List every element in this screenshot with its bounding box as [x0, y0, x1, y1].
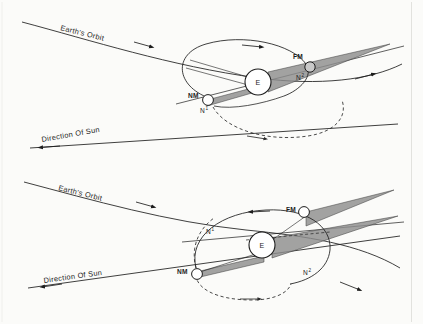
full-moon-body-lower [299, 207, 310, 218]
svg-text:2: 2 [302, 73, 305, 78]
sun-direction-line-lower [28, 236, 400, 288]
panel-upper: E Earth's Orbit Direction Of Sun NM FM N… [22, 22, 404, 148]
new-moon-shadow-cone-lower [196, 256, 264, 278]
earths-orbit-label-lower: Earth's Orbit [58, 183, 104, 203]
svg-text:1: 1 [206, 106, 209, 111]
node-n2-label-lower: N 2 [303, 268, 312, 277]
full-moon-label-lower: FM [286, 206, 296, 213]
new-moon-body-lower [192, 269, 203, 280]
sun-direction-label-lower: Direction Of Sun [43, 268, 103, 285]
eclipse-diagram-figure: E Earth's Orbit Direction Of Sun NM FM N… [0, 0, 423, 324]
svg-text:1: 1 [212, 227, 215, 232]
svg-text:N: N [303, 269, 308, 276]
new-moon-label-lower: NM [177, 268, 188, 275]
svg-text:2: 2 [309, 268, 312, 273]
svg-text:N: N [200, 107, 205, 114]
earth-shadow-cone-upper [268, 44, 390, 92]
earths-orbit-arrow-upper [134, 42, 152, 47]
moon-orbit-direction-arrow-top-upper [242, 45, 262, 47]
diagram-canvas: E Earth's Orbit Direction Of Sun NM FM N… [0, 0, 423, 324]
node-n2-label-upper: N 2 [296, 73, 305, 82]
node-n1-label-upper: N 1 [200, 106, 209, 115]
earths-orbit-arrow-upper-right [355, 74, 374, 79]
earths-orbit-arrow-lower-right [340, 282, 360, 290]
new-moon-label-upper: NM [188, 92, 199, 99]
panel-lower: E Earth's Orbit Direction Of Sun NM FM N… [24, 182, 404, 300]
earths-orbit-label-upper: Earth's Orbit [60, 23, 106, 43]
svg-text:N: N [296, 74, 301, 81]
sun-direction-label-upper: Direction Of Sun [41, 125, 101, 144]
earth-shadow-cone-lower [272, 216, 398, 258]
earth-label-lower: E [260, 242, 265, 249]
new-moon-body-upper [203, 95, 214, 106]
earth-label-upper: E [256, 79, 261, 86]
moon-orbit-direction-arrow-upper [247, 136, 266, 139]
node-n1-label-lower: N 1 [206, 227, 215, 236]
earths-orbit-arrow-lower [136, 202, 154, 207]
full-moon-label-upper: FM [293, 53, 303, 60]
node-chord-upper-b [186, 68, 252, 86]
full-moon-body-upper [305, 62, 315, 72]
svg-text:N: N [206, 228, 211, 235]
